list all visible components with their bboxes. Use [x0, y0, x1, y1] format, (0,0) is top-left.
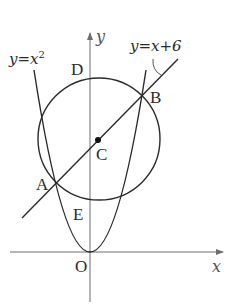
parabola-equation-label: y=x2: [8, 49, 45, 68]
point-label-e: E: [73, 205, 83, 224]
axis-label-x: x: [212, 257, 221, 276]
point-label-c: C: [96, 145, 107, 164]
point-c-dot: [95, 137, 101, 143]
point-label-b: B: [150, 88, 161, 107]
point-label-a: A: [36, 175, 49, 194]
line-equation-label: y=x+6: [129, 37, 182, 55]
math-diagram: y x O y=x2 y=x+6 D B C A E: [0, 0, 228, 305]
axis-label-y: y: [95, 27, 106, 46]
origin-label: O: [75, 257, 87, 276]
line-label-leader: [153, 59, 161, 75]
parabola-equation-exponent: 2: [39, 49, 45, 60]
point-label-d: D: [71, 60, 83, 79]
parabola-equation-base: y=x: [8, 50, 39, 68]
